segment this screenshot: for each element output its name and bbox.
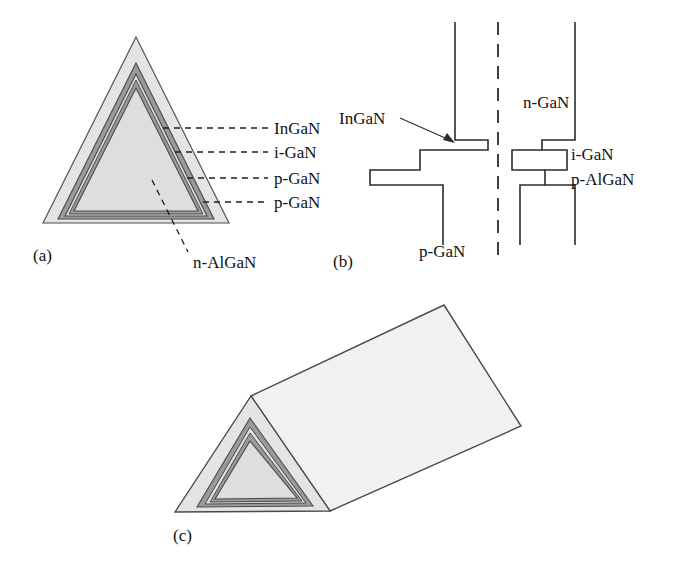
stepped-profile-right-base xyxy=(520,185,545,245)
panel-label-b: (b) xyxy=(333,253,353,270)
panel-c xyxy=(175,305,521,512)
panel-b xyxy=(370,22,575,262)
stepped-profile-left xyxy=(370,22,488,245)
callout-label-p-algan-b: p-AlGaN xyxy=(571,171,634,188)
panel-label-c: (c) xyxy=(173,527,192,544)
callout-label-p-gan-a-2: p-GaN xyxy=(274,194,320,211)
callout-label-p-gan-a-1: p-GaN xyxy=(274,170,320,187)
callout-label-ingan-b: InGaN xyxy=(339,110,385,127)
callout-label-i-gan-a: i-GaN xyxy=(274,144,316,161)
arrow-line-ingan xyxy=(400,118,452,141)
callout-label-ingan-a: InGaN xyxy=(274,120,320,137)
panel-a xyxy=(43,37,268,252)
callout-label-p-gan-b: p-GaN xyxy=(419,243,465,260)
stepped-profile-right-lower xyxy=(512,150,545,170)
callout-label-i-gan-b: i-GaN xyxy=(571,146,613,163)
arrow-head-ingan xyxy=(443,133,455,143)
figure-canvas xyxy=(0,0,693,565)
panel-label-a: (a) xyxy=(33,247,52,264)
callout-label-n-gan-b: n-GaN xyxy=(523,94,569,111)
callout-label-n-algan-a: n-AlGaN xyxy=(193,254,256,271)
stepped-profile-right xyxy=(542,22,575,245)
